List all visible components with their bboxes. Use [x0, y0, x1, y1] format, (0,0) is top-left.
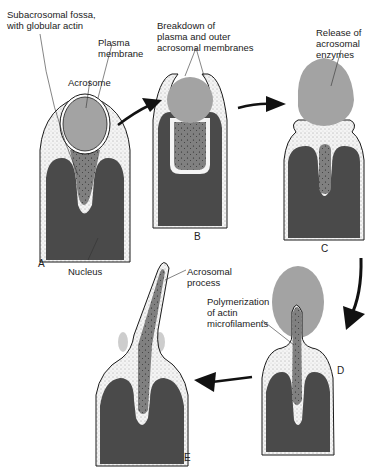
actin-filaments-d	[292, 307, 302, 405]
stage-d-sperm-head	[262, 266, 334, 455]
acrosome-reaction-diagram	[0, 0, 384, 471]
stage-label-e: E	[184, 452, 191, 463]
stage-b-sperm-head	[153, 74, 227, 228]
label-release: Release of acrosomal enzymes	[316, 27, 361, 60]
acrosome-b	[167, 77, 213, 123]
arrow-left-icon	[194, 372, 252, 392]
label-nucleus: Nucleus	[68, 266, 102, 277]
stage-label-a: A	[38, 258, 45, 269]
stage-c-sperm-head	[284, 58, 364, 240]
label-polymerization: Polymerization of actin microfilaments	[207, 296, 269, 329]
label-acrosome: Acrosome	[68, 77, 111, 88]
arrow-right-icon	[238, 96, 286, 112]
stage-e-sperm-head	[96, 262, 188, 466]
subacrosomal-fossa-c	[319, 144, 331, 194]
arrow-curved-down-icon	[343, 258, 365, 330]
stage-label-c: C	[321, 243, 328, 254]
stage-a-sperm-head	[40, 94, 130, 262]
label-breakdown: Breakdown of plasma and outer acrosomal …	[157, 20, 254, 53]
subacrosomal-fossa-b	[174, 122, 206, 170]
stage-label-d: D	[337, 365, 344, 376]
label-plasma-membrane: Plasma membrane	[98, 37, 143, 59]
label-subacrosomal-fossa: Subacrosomal fossa, with globular actin	[7, 9, 96, 31]
acrosome-a	[63, 97, 107, 151]
label-acrosomal-process: Acrosomal process	[187, 266, 232, 288]
stage-label-b: B	[194, 231, 201, 242]
acrosome-released-c	[298, 58, 354, 126]
